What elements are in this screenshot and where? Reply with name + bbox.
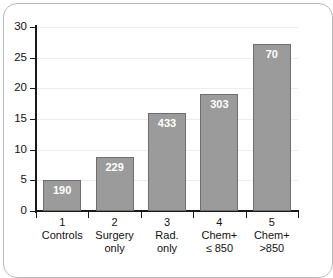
category-number: 4: [193, 216, 245, 229]
y-tick-mark: [30, 27, 35, 28]
bar-value-label: 433: [149, 117, 185, 129]
y-tick-mark: [30, 58, 35, 59]
y-tick-mark: [30, 150, 35, 151]
x-category-label: 4Chem+≤ 850: [193, 216, 245, 255]
category-name-line2: >850: [246, 242, 298, 255]
x-category-label: 2Surgeryonly: [88, 216, 140, 255]
category-name-line1: Rad.: [141, 229, 193, 242]
y-tick-label: 5: [0, 174, 27, 186]
category-number: 1: [36, 216, 88, 229]
bar-value-label: 190: [44, 184, 80, 196]
x-category-label: 1Controls: [36, 216, 88, 242]
category-name-line1: Surgery: [88, 229, 140, 242]
category-name-line1: Chem+: [246, 229, 298, 242]
category-name-line2: only: [141, 242, 193, 255]
bar: 190: [43, 180, 81, 211]
x-tick-mark: [298, 212, 299, 218]
y-tick-label: 25: [0, 52, 27, 64]
category-number: 5: [246, 216, 298, 229]
category-number: 3: [141, 216, 193, 229]
y-tick-mark: [30, 119, 35, 120]
bar-value-label: 70: [254, 48, 290, 60]
y-tick-mark: [30, 180, 35, 181]
y-tick-label: 15: [0, 113, 27, 125]
y-tick-mark: [30, 88, 35, 89]
category-number: 2: [88, 216, 140, 229]
category-name-line2: ≤ 850: [193, 242, 245, 255]
category-name-line1: Chem+: [193, 229, 245, 242]
x-category-label: 3Rad.only: [141, 216, 193, 255]
bar: 303: [200, 94, 238, 211]
category-name-line1: Controls: [36, 229, 88, 242]
category-name-line2: only: [88, 242, 140, 255]
y-tick-label: 20: [0, 82, 27, 94]
bar: 70: [253, 44, 291, 211]
bar-value-label: 303: [201, 98, 237, 110]
bar: 229: [96, 157, 134, 211]
x-category-label: 5Chem+>850: [246, 216, 298, 255]
bar: 433: [148, 113, 186, 211]
y-tick-label: 0: [0, 205, 27, 217]
plot-area: 19022943330370: [36, 27, 298, 211]
y-tick-label: 30: [0, 21, 27, 33]
y-tick-label: 10: [0, 144, 27, 156]
bar-value-label: 229: [97, 161, 133, 173]
